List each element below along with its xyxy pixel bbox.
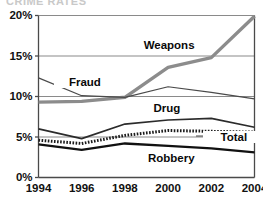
series-label-total: Total <box>203 131 263 143</box>
line-chart: CRIME RATES 20% 15% 10% 5% 0% 1994 1996 … <box>0 0 263 198</box>
y-axis-tick-10: 10% <box>0 90 33 102</box>
series-label-robbery: Robbery <box>140 152 202 164</box>
series-label-drug: Drug <box>136 102 198 114</box>
x-axis-tick-2000: 2000 <box>146 182 190 194</box>
y-axis-tick-15: 15% <box>0 50 33 62</box>
chart-plot-area <box>0 0 263 198</box>
x-axis-tick-1998: 1998 <box>103 182 147 194</box>
series-line-weapons <box>39 16 255 102</box>
y-axis-tick-5: 5% <box>0 131 33 143</box>
y-axis-tick-20: 20% <box>0 9 33 21</box>
series-label-fraud: Fraud <box>54 76 116 88</box>
x-axis-tick-1994: 1994 <box>17 182 61 194</box>
x-axis-tick-2004: 2004 <box>233 182 264 194</box>
series-label-weapons: Weapons <box>138 39 200 51</box>
x-axis-tick-1996: 1996 <box>60 182 104 194</box>
x-axis-tick-2002: 2002 <box>189 182 233 194</box>
